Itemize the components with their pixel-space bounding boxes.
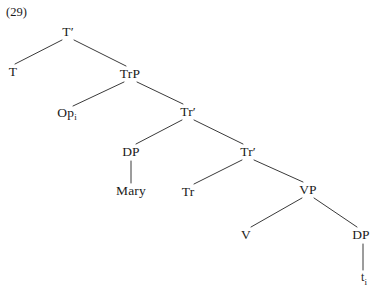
tree-node-trbar2: Tr′ (240, 145, 256, 159)
syntax-tree-figure: (29) T′TTrPOpiTr′DPTr′MaryTrVPVDPti (0, 0, 382, 294)
node-subscript: i (74, 112, 77, 122)
tree-node-vp: VP (299, 183, 317, 197)
node-label: VP (299, 182, 317, 197)
tree-edge-tp-to-trp (74, 40, 126, 66)
node-prime-mark: ′ (193, 104, 196, 119)
node-label: Tr (182, 184, 195, 199)
tree-edge-trbar1-to-trbar2 (194, 120, 243, 144)
tree-node-trace: ti (361, 271, 367, 286)
tree-branch-lines (0, 0, 382, 294)
node-label: Tr (180, 104, 193, 119)
tree-node-dp2: DP (352, 228, 370, 242)
tree-edge-trbar1-to-dp1 (136, 120, 182, 144)
tree-node-trbar1: Tr′ (180, 105, 196, 119)
tree-node-tr: Tr (182, 185, 195, 199)
node-prime-mark: ′ (71, 24, 74, 39)
node-label: Mary (116, 183, 146, 198)
node-subscript: i (365, 277, 368, 287)
node-label: Tr (240, 144, 253, 159)
node-label: TrP (120, 66, 140, 81)
tree-edge-trbar2-to-vp (254, 160, 303, 182)
tree-node-t: T (9, 65, 17, 79)
tree-edge-trp-to-trbar1 (137, 82, 183, 104)
node-label: V (241, 227, 251, 242)
node-prime-mark: ′ (253, 144, 256, 159)
tree-node-tp: T′ (62, 25, 73, 39)
tree-edge-trp-to-op (73, 82, 124, 106)
node-label: DP (352, 227, 370, 242)
tree-node-op: Opi (57, 106, 76, 123)
tree-edge-vp-to-dp2 (314, 198, 357, 227)
node-label: Op (57, 105, 74, 120)
tree-node-v: V (241, 228, 251, 242)
tree-node-mary: Mary (116, 184, 146, 198)
tree-node-dp1: DP (122, 145, 140, 159)
tree-edge-tp-to-t (15, 40, 62, 64)
tree-edge-vp-to-v (251, 198, 302, 227)
tree-node-trp: TrP (120, 67, 140, 81)
node-label: DP (122, 144, 140, 159)
node-label: T (9, 64, 17, 79)
tree-edge-trbar2-to-tr (194, 160, 242, 184)
